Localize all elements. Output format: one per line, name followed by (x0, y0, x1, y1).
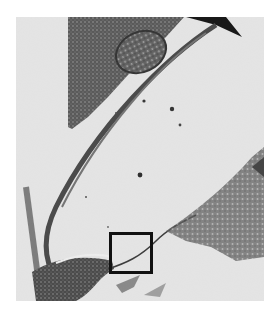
region-of-interest-box (109, 232, 153, 274)
